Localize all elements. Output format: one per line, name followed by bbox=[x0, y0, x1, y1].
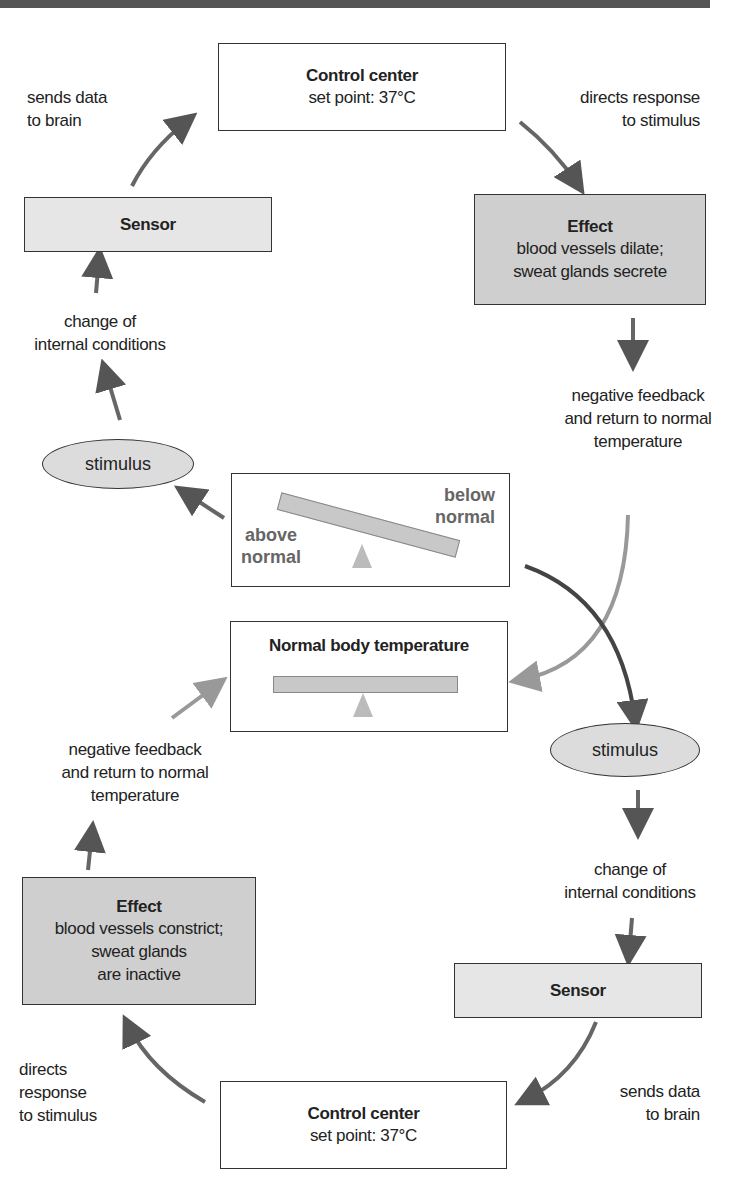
level-beam bbox=[273, 676, 458, 693]
arrow-control-to-effect bbox=[520, 122, 578, 185]
arrow-change-to-sensor bbox=[96, 258, 99, 293]
control-center-top: Control center set point: 37°C bbox=[218, 43, 506, 131]
effect-title: Effect bbox=[567, 217, 612, 237]
sensor-title: Sensor bbox=[120, 215, 176, 235]
change-of-label-top: change of internal conditions bbox=[10, 310, 190, 356]
control-center-bottom: Control center set point: 37°C bbox=[220, 1081, 507, 1169]
directs-response-label-bottom: directs response to stimulus bbox=[19, 1058, 97, 1127]
sends-data-label-top: sends data to brain bbox=[27, 86, 107, 132]
effect-line: are inactive bbox=[97, 963, 180, 986]
arrow-sensor-to-control bbox=[132, 120, 188, 186]
control-center-title: Control center bbox=[306, 66, 418, 86]
effect-title: Effect bbox=[116, 897, 161, 917]
effect-line: sweat glands bbox=[91, 940, 187, 963]
negative-feedback-label-top: negative feedback and return to normal t… bbox=[538, 384, 737, 453]
arrow-change-to-sensor2 bbox=[629, 918, 632, 955]
control-center-title: Control center bbox=[308, 1104, 420, 1124]
arrow-sensor-to-control2 bbox=[525, 1022, 596, 1100]
effect-top: Effect blood vessels dilate; sweat gland… bbox=[474, 194, 706, 305]
arrow-balance-to-stimulus bbox=[184, 492, 224, 518]
stimulus-bottom: stimulus bbox=[550, 723, 700, 777]
effect-line: sweat glands secrete bbox=[513, 260, 667, 283]
sensor-title: Sensor bbox=[550, 981, 606, 1001]
negative-feedback-label-bottom: negative feedback and return to normal t… bbox=[20, 738, 250, 807]
effect-line: blood vessels dilate; bbox=[517, 237, 664, 260]
above-normal-label: above normal bbox=[241, 524, 301, 568]
arrow-feedback-to-normal2 bbox=[172, 684, 218, 718]
directs-response-label-top: directs response to stimulus bbox=[580, 86, 700, 132]
fulcrum-icon bbox=[352, 544, 372, 568]
sends-data-label-bottom: sends data to brain bbox=[620, 1080, 700, 1126]
change-of-label-bottom: change of internal conditions bbox=[535, 858, 725, 904]
arrow-feedback-to-normal bbox=[520, 515, 628, 680]
effect-line: blood vessels constrict; bbox=[55, 917, 224, 940]
arrow-stimulus-to-change bbox=[105, 370, 120, 420]
sensor-top: Sensor bbox=[24, 197, 272, 252]
arrow-effect-to-feedback2 bbox=[88, 832, 92, 870]
normal-temperature-box: Normal body temperature bbox=[230, 621, 508, 732]
normal-temperature-title: Normal body temperature bbox=[231, 636, 507, 656]
below-normal-label: below normal bbox=[435, 484, 495, 528]
set-point-label: set point: 37°C bbox=[308, 86, 415, 109]
balance-tilted-box: below normal above normal bbox=[231, 473, 510, 587]
stimulus-top: stimulus bbox=[42, 439, 194, 489]
set-point-label: set point: 37°C bbox=[310, 1124, 417, 1147]
effect-bottom: Effect blood vessels constrict; sweat gl… bbox=[22, 877, 256, 1005]
fulcrum-icon bbox=[353, 693, 373, 717]
arrow-control-to-effect2 bbox=[128, 1025, 205, 1102]
sensor-bottom: Sensor bbox=[454, 963, 702, 1018]
